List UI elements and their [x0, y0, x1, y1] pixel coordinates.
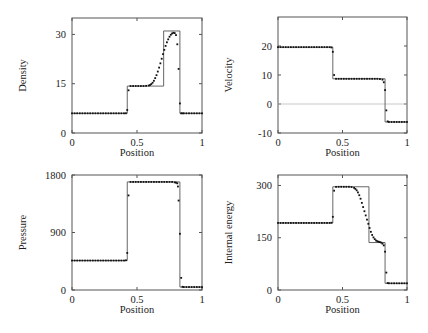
data-point [285, 222, 287, 224]
data-point [321, 222, 323, 224]
data-point [361, 202, 363, 204]
data-point [348, 186, 350, 188]
data-point [171, 181, 173, 183]
data-point [178, 68, 180, 70]
data-point [293, 222, 295, 224]
data-point [393, 282, 395, 284]
data-point [332, 51, 334, 53]
data-point [95, 260, 97, 262]
y-tick-label: -10 [258, 128, 272, 139]
data-point [89, 260, 91, 262]
data-point [285, 46, 287, 48]
data-point [369, 78, 371, 80]
data-point [348, 78, 350, 80]
data-point [79, 260, 81, 262]
data-point [82, 260, 84, 262]
data-point [177, 186, 179, 188]
data-point [382, 243, 384, 245]
x-tick-label: 1 [404, 294, 409, 305]
data-point [367, 223, 369, 225]
data-point [97, 260, 99, 262]
data-point [84, 260, 86, 262]
density-plot-frame [72, 18, 202, 133]
data-point [280, 222, 282, 224]
data-point [188, 112, 190, 114]
data-point [126, 252, 128, 254]
x-tick-label: 1 [199, 137, 204, 148]
velocity-exact-solution-line [278, 47, 407, 122]
data-point [165, 45, 167, 47]
data-point [321, 46, 323, 48]
data-point [74, 260, 76, 262]
data-point [121, 112, 123, 114]
data-point [401, 121, 403, 123]
data-point [115, 112, 117, 114]
data-point [174, 32, 176, 34]
data-point [128, 89, 130, 91]
y-tick-label: 900 [50, 227, 66, 238]
exact-solution-path [278, 47, 407, 122]
data-point [156, 74, 158, 76]
data-point [176, 43, 178, 45]
data-point [169, 181, 171, 183]
data-point [145, 85, 147, 87]
data-point [97, 112, 99, 114]
data-point [365, 215, 367, 217]
data-point [338, 78, 340, 80]
data-point [401, 282, 403, 284]
data-point [345, 78, 347, 80]
data-point [383, 81, 385, 83]
data-point [384, 251, 386, 253]
density-y-axis-label: Density [17, 58, 28, 91]
data-point [169, 36, 171, 38]
y-tick-label: 20 [262, 41, 273, 52]
data-point [191, 286, 193, 288]
x-tick-label: 0 [275, 294, 280, 305]
data-point [374, 78, 376, 80]
data-point [87, 260, 89, 262]
data-point [396, 282, 398, 284]
data-point [92, 112, 94, 114]
data-point [115, 260, 117, 262]
exact-solution-path [278, 187, 407, 284]
data-point [333, 74, 335, 76]
data-point [105, 112, 107, 114]
data-point [175, 34, 177, 36]
data-point [282, 46, 284, 48]
data-point [404, 121, 406, 123]
data-point [379, 78, 381, 80]
velocity-panel: -1001020 00.51 Velocity Position [223, 17, 410, 158]
data-point [154, 77, 156, 79]
velocity-y-axis-label: Velocity [223, 57, 234, 93]
data-point [356, 189, 358, 191]
data-point [338, 186, 340, 188]
data-point [332, 216, 334, 218]
data-point [102, 112, 104, 114]
data-point [316, 46, 318, 48]
data-point [201, 112, 203, 114]
data-point [384, 89, 386, 91]
data-point [391, 121, 393, 123]
plot-frame-rect [72, 175, 202, 290]
density-panel: 01530 00.51 Density Position [17, 18, 205, 158]
data-point [329, 222, 331, 224]
y-tick-label: 0 [267, 99, 272, 110]
data-point [132, 181, 134, 183]
data-point [277, 46, 279, 48]
data-point [357, 192, 359, 194]
data-point [100, 112, 102, 114]
data-point [313, 222, 315, 224]
data-point [295, 222, 297, 224]
data-point [290, 46, 292, 48]
y-tick-label: 15 [56, 78, 67, 89]
data-point [303, 46, 305, 48]
velocity-plot-frame [278, 17, 407, 133]
pressure-numerical-points [71, 181, 203, 288]
data-point [105, 260, 107, 262]
data-point [143, 85, 145, 87]
data-point [326, 222, 328, 224]
y-tick-label: 0 [61, 128, 66, 139]
data-point [153, 181, 155, 183]
pressure-y-axis-label: Pressure [17, 214, 28, 250]
data-point [356, 78, 358, 80]
